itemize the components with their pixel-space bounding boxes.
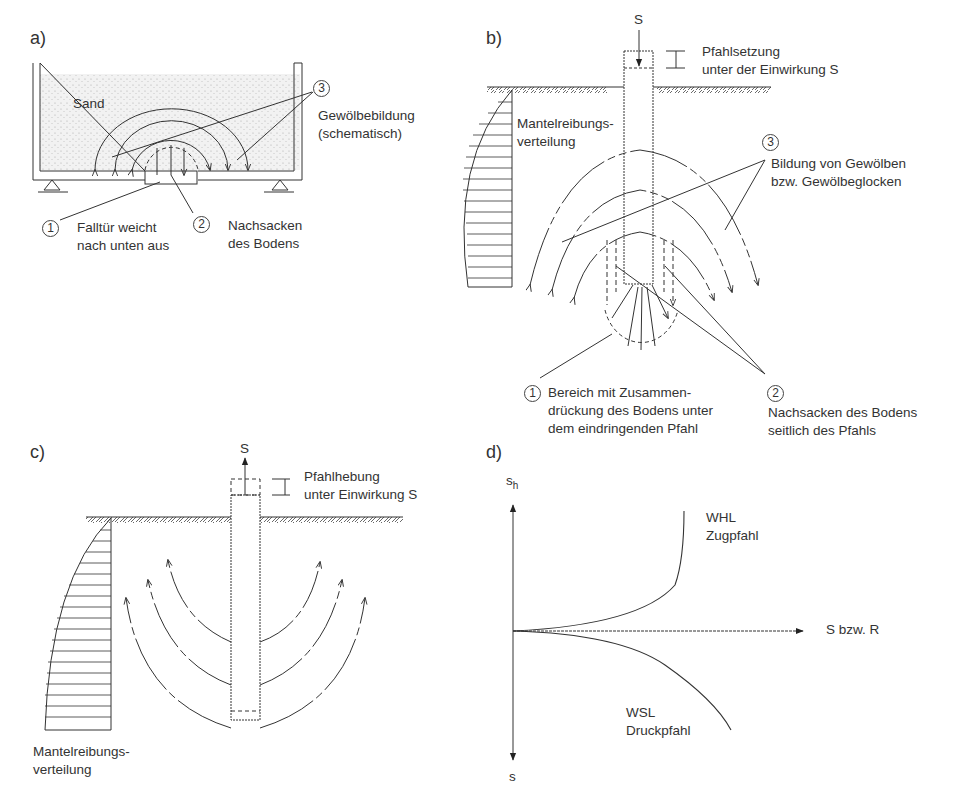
callout-1-b: 1	[524, 384, 547, 402]
sagging-b-label-2: seitlich des Pfahls	[768, 422, 876, 439]
y-axis-down-label: s	[509, 768, 516, 785]
sagging-label-2: des Bodens	[228, 235, 299, 252]
panel-d-label: d)	[486, 444, 502, 461]
callout-1-a: 1	[42, 219, 65, 237]
friction-label-c-1: Mantelreibungs-	[33, 743, 130, 760]
trapdoor-label-2: nach unten aus	[77, 237, 169, 254]
sand-label: Sand	[73, 95, 105, 112]
y-axis-up-label: sh	[506, 472, 518, 494]
compression-label-3: dem eindringenden Pfahl	[548, 420, 698, 437]
settlement-label-2: unter der Einwirkung S	[702, 61, 839, 78]
panel-a-label: a)	[30, 30, 46, 47]
callout-2-b: 2	[767, 384, 790, 402]
load-s-c: S	[240, 440, 249, 457]
heave-label-2: unter Einwirkung S	[304, 486, 417, 503]
panel-b-label: b)	[486, 30, 502, 47]
arching-label-1: Gewölbebildung	[318, 107, 415, 124]
friction-label-b-1: Mantelreibungs-	[517, 115, 614, 132]
load-s-b: S	[634, 11, 643, 28]
callout-3-a: 3	[313, 79, 336, 97]
panel-a-drawing	[33, 63, 313, 220]
friction-label-c-2: verteilung	[33, 761, 92, 778]
panel-c-label: c)	[30, 444, 45, 461]
callout-3-b: 3	[762, 133, 785, 151]
compression-label-2: drückung des Bodens unter	[548, 402, 713, 419]
curve-compression-label-1: WSL	[626, 704, 655, 721]
sagging-b-label-1: Nachsacken des Bodens	[768, 404, 917, 421]
compression-label-1: Bereich mit Zusammen-	[548, 384, 691, 401]
settlement-label-1: Pfahlsetzung	[702, 43, 780, 60]
arching-b-label-2: bzw. Gewölbeglocken	[771, 173, 902, 190]
panel-b-drawing	[463, 30, 771, 378]
curve-compression-label-2: Druckpfahl	[626, 722, 691, 739]
heave-label-1: Pfahlhebung	[304, 468, 380, 485]
curve-tension-label-2: Zugpfahl	[706, 527, 759, 544]
trapdoor-label-1: Falltür weicht	[77, 219, 157, 236]
friction-label-b-2: verteilung	[517, 133, 576, 150]
callout-2-a: 2	[193, 215, 216, 233]
arching-label-2: (schematisch)	[318, 125, 402, 142]
x-axis-label: S bzw. R	[826, 621, 879, 638]
figure-drawing	[0, 0, 967, 806]
sagging-label-1: Nachsacken	[228, 217, 302, 234]
curve-tension-label-1: WHL	[706, 509, 736, 526]
arching-b-label-1: Bildung von Gewölben	[771, 155, 906, 172]
